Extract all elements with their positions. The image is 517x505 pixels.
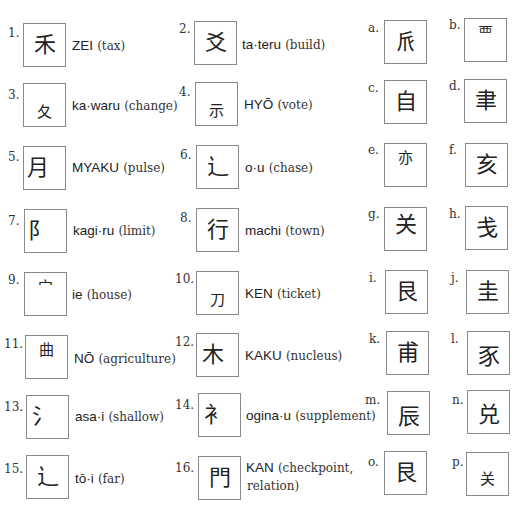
question-number: 6.	[180, 148, 191, 162]
option-glyph-box[interactable]: 兑	[467, 390, 510, 434]
question-label: kagi·ru (limit)	[73, 222, 155, 240]
question-number: 11.	[4, 337, 23, 351]
question-number: 2.	[179, 22, 190, 36]
option-glyph-box[interactable]: 戋	[465, 206, 508, 250]
option-glyph-box[interactable]: 𠂢	[384, 20, 427, 64]
question-number: 1.	[8, 26, 19, 40]
kanji-glyph: 亦	[398, 151, 413, 166]
option-letter: h.	[449, 207, 461, 221]
question-label: o·u (chase)	[245, 159, 313, 177]
kanji-glyph: 門	[209, 467, 231, 489]
kanji-glyph: 月	[27, 157, 49, 179]
kanji-glyph: 氵	[32, 406, 54, 428]
kanji-glyph: 戋	[476, 217, 498, 239]
question-label: ta·teru (build)	[242, 36, 325, 54]
kanji-glyph: 阝	[28, 220, 50, 242]
kanji-glyph: 𠂢	[395, 31, 417, 53]
question-number: 10.	[175, 272, 194, 286]
question-label: machi (town)	[245, 222, 325, 240]
option-letter: a.	[368, 21, 379, 35]
kanji-glyph: 覀	[478, 26, 493, 41]
option-glyph-box[interactable]: 聿	[464, 79, 507, 123]
question-label: asa·i (shallow)	[75, 408, 164, 426]
question-label: KAKU (nucleus)	[245, 347, 342, 365]
kanji-glyph: 甫	[397, 342, 419, 364]
kanji-glyph: 木	[202, 344, 224, 366]
question-label-continuation: relation)	[247, 477, 299, 495]
question-glyph-box: 禾	[23, 23, 66, 67]
question-number: 3.	[8, 88, 19, 102]
option-letter: n.	[452, 393, 464, 407]
option-glyph-box[interactable]: 亦	[384, 143, 427, 187]
option-letter: f.	[449, 143, 457, 157]
question-number: 14.	[175, 398, 194, 412]
kanji-glyph: 刀	[210, 293, 225, 308]
kanji-glyph: 艮	[395, 462, 417, 484]
question-label: ZEI (tax)	[72, 37, 125, 55]
question-number: 13.	[4, 400, 23, 414]
option-letter: m.	[365, 393, 380, 407]
question-glyph-box: 月	[23, 146, 66, 190]
question-label: ka·waru (change)	[72, 97, 178, 115]
question-number: 4.	[179, 85, 190, 99]
option-letter: e.	[368, 143, 379, 157]
kanji-glyph: 行	[207, 219, 229, 241]
kanji-glyph: 爻	[205, 32, 227, 54]
kanji-glyph: 圭	[477, 281, 499, 303]
question-number: 8.	[180, 211, 191, 225]
question-glyph-box: 示	[195, 82, 238, 126]
option-letter: g.	[368, 207, 380, 221]
question-glyph-box: 爻	[194, 21, 237, 65]
question-number: 5.	[8, 150, 19, 164]
kanji-glyph: 亥	[476, 154, 498, 176]
question-glyph-box: 夂	[23, 83, 66, 127]
kanji-glyph: 兑	[478, 404, 500, 426]
option-glyph-box[interactable]: 自	[384, 80, 427, 124]
question-glyph-box: 氵	[26, 395, 69, 439]
option-glyph-box[interactable]: 艮	[385, 270, 428, 314]
question-number: 7.	[8, 214, 19, 228]
question-label: ie (house)	[72, 286, 132, 304]
question-label: HYŌ (vote)	[244, 96, 313, 114]
option-letter: j.	[451, 271, 459, 285]
question-number: 15.	[4, 462, 23, 476]
option-glyph-box[interactable]: 艮	[384, 451, 427, 495]
kanji-glyph: 曲	[39, 343, 54, 358]
option-glyph-box[interactable]: 圭	[466, 270, 509, 314]
question-label: ogina·u (supplement)	[246, 407, 376, 425]
question-label: KAN (checkpoint,	[246, 459, 353, 477]
option-glyph-box[interactable]: 关	[384, 207, 427, 251]
question-label: MYAKU (pulse)	[72, 159, 165, 177]
option-glyph-box[interactable]: 豕	[467, 331, 510, 375]
question-glyph-box: 行	[196, 208, 239, 252]
option-glyph-box[interactable]: 亥	[465, 143, 508, 187]
option-letter: c.	[368, 81, 379, 95]
question-number: 16.	[175, 461, 194, 475]
option-glyph-box[interactable]: 覀	[464, 18, 507, 62]
option-letter: b.	[449, 18, 461, 32]
kanji-glyph: 关	[480, 472, 495, 487]
question-label: NŌ (agriculture)	[74, 350, 176, 368]
question-glyph-box: 辶	[26, 455, 69, 499]
option-letter: p.	[452, 455, 464, 469]
kanji-glyph: 辶	[37, 466, 59, 488]
option-glyph-box[interactable]: 辰	[387, 391, 430, 435]
kanji-glyph: 辶	[207, 156, 229, 178]
kanji-glyph: 豕	[478, 346, 500, 368]
option-letter: l.	[451, 332, 459, 346]
kanji-glyph: 夂	[37, 105, 52, 120]
kanji-glyph: 示	[209, 104, 224, 119]
kanji-glyph: 禾	[34, 34, 56, 56]
question-glyph-box: 門	[198, 456, 241, 500]
question-glyph-box: 木	[196, 333, 239, 377]
kanji-glyph: 辰	[398, 406, 420, 428]
question-glyph-box: 刀	[196, 271, 239, 315]
kanji-glyph: 聿	[475, 90, 497, 112]
option-glyph-box[interactable]: 甫	[386, 331, 429, 375]
question-label: tō·i (far)	[75, 470, 125, 488]
option-letter: k.	[369, 332, 380, 346]
option-glyph-box[interactable]: 关	[466, 452, 509, 496]
question-glyph-box: 辶	[196, 145, 239, 189]
question-glyph-box: 阝	[24, 209, 67, 253]
kanji-glyph: 宀	[38, 280, 53, 295]
